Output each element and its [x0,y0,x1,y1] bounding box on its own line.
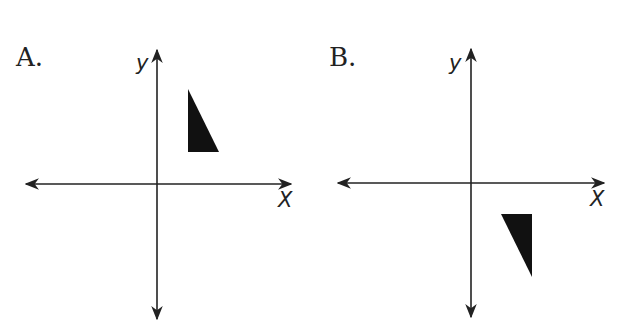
panel-b-label: B. [329,42,356,72]
x-axis-label: X [277,188,293,212]
panel-a-label: A. [15,42,43,72]
triangle-a [188,89,219,152]
triangle-b [501,214,532,277]
panel-a: A. y X [15,42,293,319]
y-axis-label: y [448,51,462,75]
panel-b: B. y X [329,42,605,317]
x-axis-label: X [589,187,605,211]
diagram-canvas: A. y X B. y X [0,0,625,330]
y-axis-label: y [135,51,149,75]
